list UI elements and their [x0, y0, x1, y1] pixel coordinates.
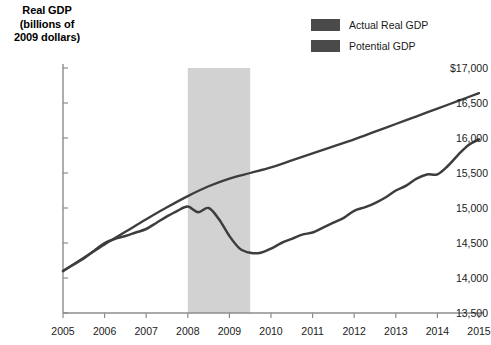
- y-axis-label-1: 16,500: [434, 97, 488, 109]
- y-axis-label-5: 14,500: [434, 237, 488, 249]
- y-axis-label-4: 15,000: [434, 202, 488, 214]
- y-axis-label-0: $17,000: [434, 62, 488, 74]
- x-axis-label-4: 2009: [218, 325, 241, 337]
- x-axis-label-5: 2010: [259, 325, 282, 337]
- y-axis-label-7: 13,500: [434, 307, 488, 319]
- x-axis-label-8: 2013: [384, 325, 407, 337]
- x-axis-label-0: 2005: [51, 325, 74, 337]
- series-line-potential-gdp: [63, 93, 479, 271]
- x-axis-label-10: 2015: [467, 325, 490, 337]
- y-axis-label-2: 16,000: [434, 132, 488, 144]
- x-axis-label-9: 2014: [426, 325, 449, 337]
- y-axis-label-6: 14,000: [434, 272, 488, 284]
- series-line-actual-real-gdp: [63, 139, 479, 271]
- x-axis-label-6: 2011: [301, 325, 324, 337]
- x-axis-label-1: 2006: [93, 325, 116, 337]
- x-axis-label-3: 2008: [176, 325, 199, 337]
- y-axis-label-3: 15,500: [434, 167, 488, 179]
- x-axis-label-7: 2012: [343, 325, 366, 337]
- x-axis-label-2: 2007: [135, 325, 158, 337]
